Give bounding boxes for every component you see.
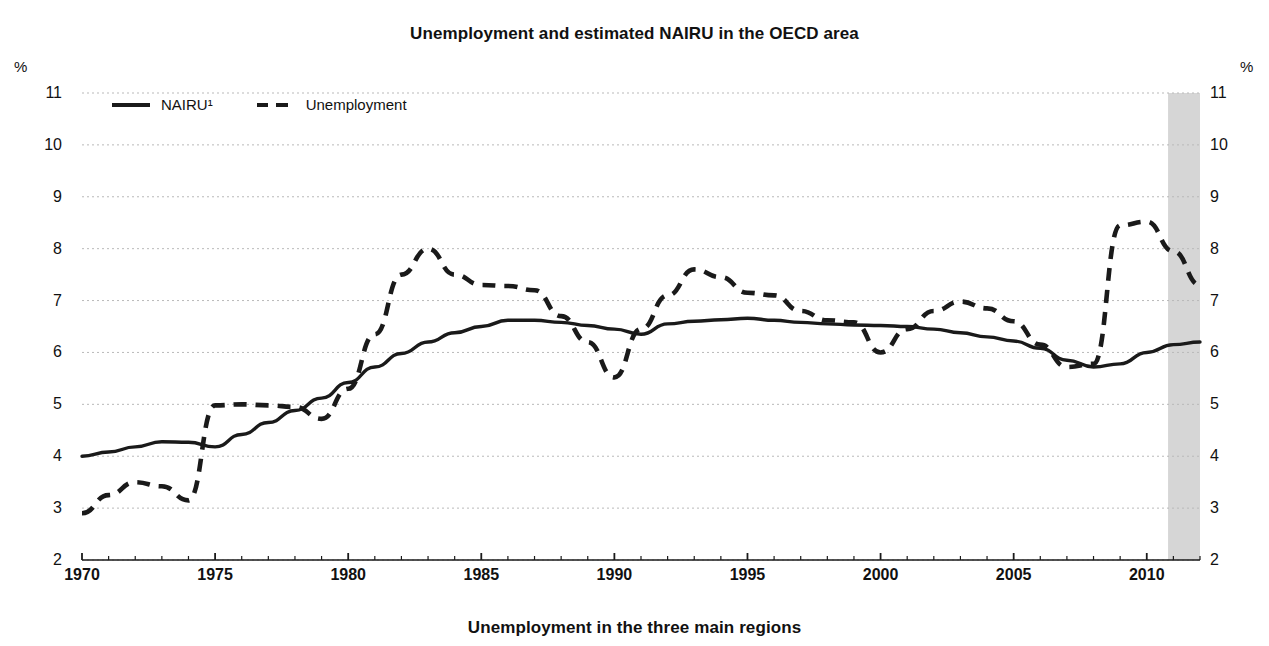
- legend-label-unemployment: Unemployment: [306, 97, 407, 112]
- x-axis-tick-1975: 1975: [197, 566, 233, 584]
- y-axis-tick-right-10: 10: [1210, 136, 1240, 154]
- y-axis-tick-left-4: 4: [32, 447, 62, 465]
- y-axis-tick-left-8: 8: [32, 240, 62, 258]
- x-axis-tick-1980: 1980: [330, 566, 366, 584]
- legend-item-nairu: NAIRU¹: [112, 97, 213, 112]
- y-axis-tick-left-7: 7: [32, 292, 62, 310]
- x-axis-tick-2005: 2005: [996, 566, 1032, 584]
- bottom-caption: Unemployment in the three main regions: [0, 618, 1269, 638]
- x-axis-ticks: [82, 553, 1200, 560]
- x-axis-tick-1985: 1985: [463, 566, 499, 584]
- y-axis-tick-right-2: 2: [1210, 551, 1240, 569]
- chart-legend: NAIRU¹ Unemployment: [112, 97, 407, 112]
- y-axis-tick-left-3: 3: [32, 499, 62, 517]
- y-axis-tick-left-10: 10: [32, 136, 62, 154]
- figure-unemployment-nairu: Unemployment and estimated NAIRU in the …: [0, 0, 1269, 646]
- y-axis-tick-left-11: 11: [32, 84, 62, 102]
- x-axis-tick-2000: 2000: [863, 566, 899, 584]
- y-axis-tick-right-7: 7: [1210, 292, 1240, 310]
- y-axis-tick-right-11: 11: [1210, 84, 1240, 102]
- y-axis-tick-right-6: 6: [1210, 343, 1240, 361]
- y-axis-tick-left-2: 2: [32, 551, 62, 569]
- x-axis-tick-1990: 1990: [597, 566, 633, 584]
- y-axis-tick-right-5: 5: [1210, 395, 1240, 413]
- projection-shading: [1168, 93, 1200, 560]
- y-axis-tick-right-8: 8: [1210, 240, 1240, 258]
- y-axis-tick-left-9: 9: [32, 188, 62, 206]
- x-axis-tick-1970: 1970: [64, 566, 100, 584]
- data-series-lines: [82, 222, 1200, 514]
- y-axis-tick-right-3: 3: [1210, 499, 1240, 517]
- y-axis-tick-left-5: 5: [32, 395, 62, 413]
- x-axis-tick-2010: 2010: [1129, 566, 1165, 584]
- dashed-line-swatch-icon: [257, 103, 295, 107]
- x-axis-tick-1995: 1995: [730, 566, 766, 584]
- y-axis-tick-right-4: 4: [1210, 447, 1240, 465]
- y-axis-tick-right-9: 9: [1210, 188, 1240, 206]
- legend-item-unemployment: Unemployment: [257, 97, 407, 112]
- legend-label-nairu: NAIRU¹: [161, 97, 213, 112]
- solid-line-swatch-icon: [112, 103, 150, 107]
- grid-lines: [82, 93, 1200, 560]
- y-axis-tick-left-6: 6: [32, 343, 62, 361]
